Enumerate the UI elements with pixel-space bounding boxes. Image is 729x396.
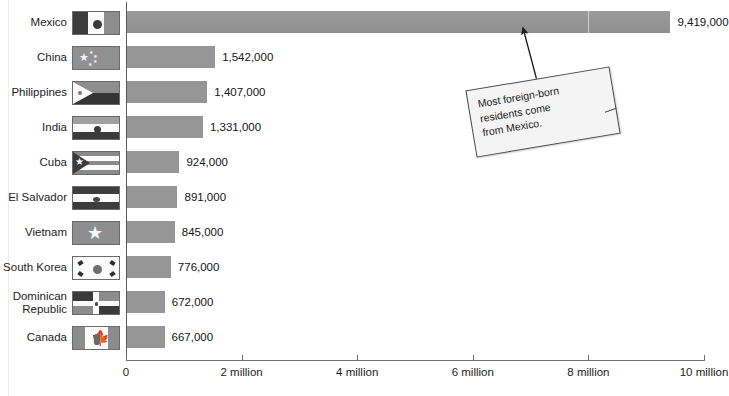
plot-area: 02 million4 million6 million8 million10 … xyxy=(126,0,722,396)
flag-mexico-icon xyxy=(72,11,120,35)
x-axis-line xyxy=(126,360,704,361)
flag-el-salvador-icon xyxy=(72,186,120,210)
flag-dominican-republic-icon xyxy=(72,291,120,315)
x-axis-tick xyxy=(126,355,127,361)
category-label: South Korea xyxy=(0,250,67,285)
x-axis-tick-label: 0 xyxy=(123,366,129,378)
category-label: Cuba xyxy=(0,145,67,180)
x-axis-tick-label: 4 million xyxy=(336,366,378,378)
category-label: Philippines xyxy=(0,75,67,110)
y-axis-line xyxy=(126,2,127,360)
category-label: Dominican Republic xyxy=(0,285,67,320)
x-axis-tick xyxy=(704,355,705,361)
category-label: India xyxy=(0,110,67,145)
flag-cuba-icon: ★ xyxy=(72,151,120,175)
x-axis-tick-label: 8 million xyxy=(567,366,609,378)
flag-india-icon xyxy=(72,116,120,140)
x-axis-tick xyxy=(473,355,474,361)
flag-philippines-icon xyxy=(72,81,120,105)
category-label: Vietnam xyxy=(0,215,67,250)
x-axis-tick xyxy=(588,355,589,361)
category-label: El Salvador xyxy=(0,180,67,215)
flag-vietnam-icon: ★ xyxy=(72,221,120,245)
callout-fold-corner xyxy=(605,108,618,124)
x-axis-tick xyxy=(357,355,358,361)
annotation-callout-text: Most foreign-born residents come from Me… xyxy=(477,76,608,140)
x-axis-tick-label: 10 million xyxy=(680,366,729,378)
x-axis-tick xyxy=(242,355,243,361)
flag-canada-icon: 🍁 xyxy=(72,326,120,350)
flag-south-korea-icon xyxy=(72,256,120,280)
category-label: Canada xyxy=(0,320,67,355)
category-label: China xyxy=(0,40,67,75)
flag-china-icon: ★★★★★ xyxy=(72,46,120,70)
x-axis-tick-label: 2 million xyxy=(221,366,263,378)
category-label: Mexico xyxy=(0,5,67,40)
x-axis-tick-label: 6 million xyxy=(452,366,494,378)
